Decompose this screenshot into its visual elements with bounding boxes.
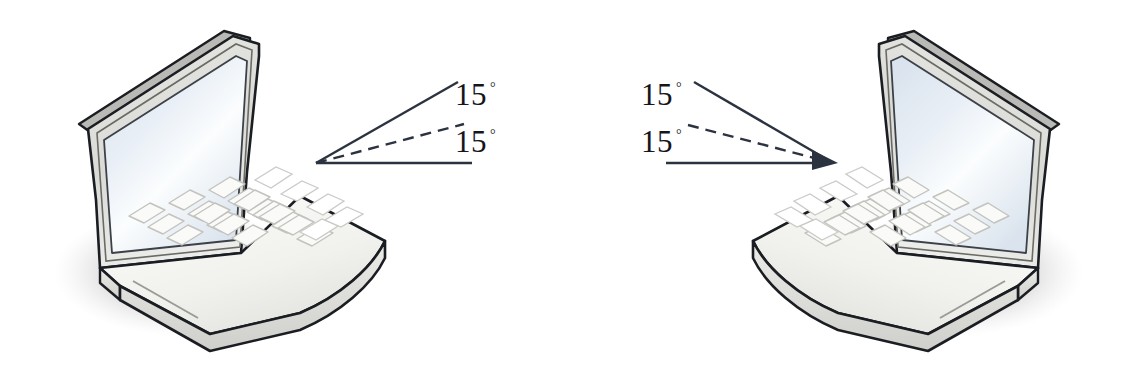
right-angle-arrowhead-icon	[812, 150, 838, 170]
left-angle-lower-label: 15°	[455, 126, 493, 157]
degree-sign-icon: °	[676, 80, 682, 95]
left-angle-upper-value: 15	[455, 77, 487, 112]
left-angle-upper-label: 15°	[455, 79, 493, 110]
illustration-canvas: 15° 15° 15° 15°	[0, 0, 1138, 365]
left-angle-lower-value: 15	[455, 124, 487, 159]
right-angle-diagram	[666, 82, 838, 170]
right-angle-upper-label: 15°	[641, 79, 679, 110]
left-angle-diagram	[316, 82, 472, 163]
degree-sign-icon: °	[490, 127, 496, 142]
right-angle-lower-value: 15	[641, 124, 673, 159]
degree-sign-icon: °	[490, 80, 496, 95]
degree-sign-icon: °	[676, 127, 682, 142]
right-angle-upper-ray	[694, 82, 828, 160]
laptop-right	[753, 31, 1084, 351]
laptop-left	[54, 31, 385, 351]
scene-svg	[0, 0, 1138, 365]
left-angle-middle-ray-dashed	[316, 124, 464, 163]
left-angle-upper-ray	[316, 82, 458, 163]
right-angle-upper-value: 15	[641, 77, 673, 112]
right-angle-lower-label: 15°	[641, 126, 679, 157]
